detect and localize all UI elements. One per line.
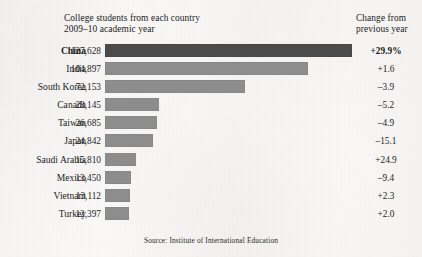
change-header-line2: previous year (356, 24, 408, 35)
bar (105, 44, 352, 57)
bar (105, 171, 131, 184)
bar (105, 80, 245, 93)
bar-track (105, 44, 355, 57)
student-count-value: 127,628 (55, 45, 101, 57)
bar (105, 134, 153, 147)
table-row: Mexico13,450–9.4 (0, 170, 422, 188)
student-count-value: 104,897 (55, 63, 101, 75)
change-value: –15.1 (356, 135, 416, 147)
bar (105, 98, 159, 111)
student-count-value: 12,397 (55, 208, 101, 220)
change-header-line1: Change from (356, 13, 408, 24)
change-value: +2.3 (356, 190, 416, 202)
bar-track (105, 153, 355, 166)
change-value: +29.9% (356, 45, 416, 57)
bar-track (105, 80, 355, 93)
student-count-value: 13,112 (55, 190, 101, 202)
bar-track (105, 189, 355, 202)
student-count-value: 26,685 (55, 117, 101, 129)
table-row: Vietnam13,112+2.3 (0, 188, 422, 206)
student-count-value: 72,153 (55, 81, 101, 93)
change-value: –9.4 (356, 172, 416, 184)
bar-rows: China127,628+29.9%India104,897+1.6South … (0, 43, 422, 224)
table-row: Saudi Arabia15,810+24.9 (0, 152, 422, 170)
table-row: Canada28,145–5.2 (0, 97, 422, 115)
change-value: –3.9 (356, 81, 416, 93)
student-count-value: 13,450 (55, 172, 101, 184)
student-count-value: 24,842 (55, 135, 101, 147)
student-count-value: 15,810 (55, 154, 101, 166)
bar-track (105, 62, 355, 75)
table-row: India104,897+1.6 (0, 61, 422, 79)
change-value: +1.6 (356, 63, 416, 75)
change-value: +2.0 (356, 208, 416, 220)
bar-track (105, 134, 355, 147)
chart-page: College students from each country 2009–… (0, 0, 422, 257)
table-row: Taiwan26,685–4.9 (0, 115, 422, 133)
chart-title: College students from each country (64, 13, 200, 24)
chart-subtitle: 2009–10 academic year (64, 24, 200, 35)
chart-title-block: College students from each country 2009–… (64, 13, 200, 35)
change-value: –5.2 (356, 99, 416, 111)
table-row: South Korea72,153–3.9 (0, 79, 422, 97)
bar-track (105, 171, 355, 184)
bar-track (105, 98, 355, 111)
bar (105, 62, 308, 75)
source-note: Source: Institute of International Educa… (0, 236, 422, 245)
bar (105, 153, 136, 166)
table-row: Turkey12,397+2.0 (0, 206, 422, 224)
change-value: –4.9 (356, 117, 416, 129)
bar (105, 207, 129, 220)
student-count-value: 28,145 (55, 99, 101, 111)
bar-track (105, 207, 355, 220)
bar (105, 189, 130, 202)
table-row: Japan24,842–15.1 (0, 133, 422, 151)
bar (105, 116, 157, 129)
table-row: China127,628+29.9% (0, 43, 422, 61)
change-column-header: Change from previous year (356, 13, 408, 35)
change-value: +24.9 (356, 154, 416, 166)
bar-track (105, 116, 355, 129)
